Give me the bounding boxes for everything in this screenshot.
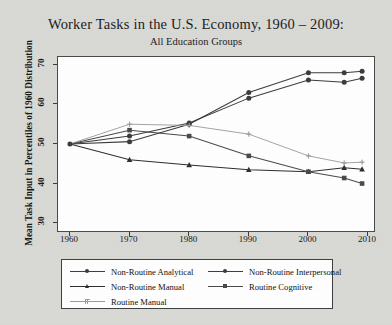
x-tick-label: 1960 [49, 234, 89, 244]
data-point [127, 128, 132, 133]
data-point [306, 77, 311, 82]
legend-line-swatch [208, 267, 243, 277]
chart-figure: Worker Tasks in the U.S. Economy, 1960 –… [0, 0, 392, 325]
data-point [127, 122, 132, 127]
legend-item-routine-cognitive[interactable]: Routine Cognitive [208, 280, 312, 294]
data-point [246, 132, 251, 137]
x-tick-label: 2010 [347, 234, 387, 244]
data-point [306, 153, 311, 158]
data-point [342, 80, 347, 85]
plot-svg [58, 57, 374, 231]
data-point [342, 176, 347, 181]
chart-legend: Non-Routine AnalyticalNon-Routine Interp… [61, 259, 333, 309]
legend-line-swatch [208, 282, 243, 292]
legend-line-swatch [70, 282, 105, 292]
series-routine-cognitive [70, 128, 364, 186]
data-point [306, 70, 311, 75]
data-point [187, 134, 192, 139]
data-point [127, 134, 132, 139]
x-tick-label: 1980 [168, 234, 208, 244]
data-point-origin [67, 142, 72, 147]
legend-item-non-routine-manual[interactable]: Non-Routine Manual [70, 280, 184, 294]
y-tick-label: 70 [36, 52, 46, 74]
data-point [360, 181, 365, 186]
data-point [360, 76, 365, 81]
data-point [127, 139, 132, 144]
legend-line-swatch [70, 267, 105, 277]
data-point [246, 90, 251, 95]
series-line [70, 71, 362, 144]
y-tick-label: 60 [36, 91, 46, 113]
data-point [246, 154, 251, 159]
x-tick-label: 1990 [228, 234, 268, 244]
legend-item-non-routine-analytical[interactable]: Non-Routine Analytical [70, 265, 193, 279]
series-non-routine-manual [70, 144, 365, 174]
legend-label: Routine Cognitive [249, 282, 312, 292]
legend-label: Routine Manual [111, 297, 167, 307]
x-tick-label: 1970 [109, 234, 149, 244]
data-point [342, 70, 347, 75]
data-point [359, 160, 364, 165]
legend-label: Non-Routine Interpersonal [249, 267, 341, 277]
x-tick-label: 2000 [287, 234, 327, 244]
y-axis-label: Mean Task Input in Percentiles of 1960 D… [24, 28, 34, 258]
legend-label: Non-Routine Analytical [111, 267, 193, 277]
legend-label: Non-Routine Manual [111, 282, 184, 292]
series-routine-manual [70, 122, 365, 166]
legend-item-routine-manual[interactable]: Routine Manual [70, 295, 167, 309]
y-tick-label: 40 [36, 171, 46, 193]
chart-title: Worker Tasks in the U.S. Economy, 1960 –… [0, 16, 392, 33]
legend-item-non-routine-interpersonal[interactable]: Non-Routine Interpersonal [208, 265, 341, 279]
y-tick-label: 30 [36, 210, 46, 232]
y-tick-label: 50 [36, 131, 46, 153]
chart-subtitle: All Education Groups [0, 36, 392, 47]
legend-line-swatch [70, 297, 105, 307]
data-point [342, 160, 347, 165]
data-point [306, 169, 311, 174]
data-point [246, 96, 251, 101]
plot-area [57, 56, 375, 232]
series-line [70, 124, 362, 163]
data-point [360, 69, 365, 74]
series-non-routine-interpersonal [70, 69, 365, 144]
